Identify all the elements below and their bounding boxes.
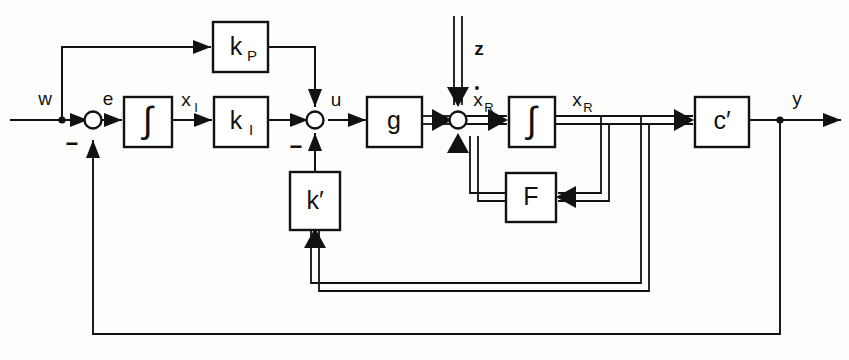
path-xR-tap-to-F xyxy=(556,116,609,208)
sum-junction-u xyxy=(307,112,324,129)
block-kprime-label: k′ xyxy=(306,186,324,214)
signal-label-xR-subscript: R xyxy=(583,100,592,115)
signal-label-xI: x I xyxy=(181,89,198,115)
signal-label-xR-base: x xyxy=(572,89,582,110)
path-xR-tap-to-kprime xyxy=(304,116,649,291)
signal-label-xRdot-base: x xyxy=(473,89,483,110)
signal-label-xRdot: x R xyxy=(473,86,493,115)
path-kprime-to-sum-u xyxy=(308,133,322,172)
path-F-to-sum-xrdot xyxy=(447,133,505,201)
path-xR-to-cprime xyxy=(555,109,694,131)
block-cprime[interactable]: c′ xyxy=(695,97,749,147)
sign-mark-u-negative: − xyxy=(290,134,303,159)
path-ki-to-sum-u xyxy=(268,113,308,127)
signal-label-xR: x R xyxy=(572,89,592,115)
signal-label-z: z xyxy=(474,38,484,59)
diagram-svg: k P ∫ k I k′ g ∫ F c′ w e x I u z x xyxy=(0,0,849,360)
block-ki[interactable]: k I xyxy=(214,97,268,147)
signal-label-u: u xyxy=(331,89,342,110)
signal-label-y: y xyxy=(792,88,802,109)
block-g-label: g xyxy=(387,106,401,134)
block-F-label: F xyxy=(523,182,538,210)
signal-label-e: e xyxy=(103,88,114,109)
signal-label-w: w xyxy=(37,88,52,109)
block-kprime[interactable]: k′ xyxy=(290,172,340,230)
path-w-input xyxy=(10,113,88,127)
signal-label-xI-base: x xyxy=(181,89,191,110)
sum-junction-e xyxy=(85,112,102,129)
block-kp-label: k xyxy=(230,32,243,60)
block-g[interactable]: g xyxy=(367,97,422,147)
block-ki-subscript: I xyxy=(249,121,253,138)
path-e-to-integrator xyxy=(101,113,122,127)
path-cprime-to-y xyxy=(749,113,841,127)
branch-dot-w xyxy=(58,116,65,123)
path-kp-to-sum-u xyxy=(268,47,322,107)
block-ki-label: k xyxy=(230,106,243,134)
block-diagram-canvas: k P ∫ k I k′ g ∫ F c′ w e x I u z x xyxy=(0,0,849,360)
block-kp-subscript: P xyxy=(247,47,257,64)
signal-label-xRdot-subscript: R xyxy=(484,100,493,115)
block-F[interactable]: F xyxy=(506,173,556,222)
sign-mark-e-negative: − xyxy=(66,131,79,156)
path-xI-to-ki xyxy=(172,113,212,127)
block-kp[interactable]: k P xyxy=(213,22,268,72)
signal-label-xI-subscript: I xyxy=(194,100,198,115)
path-u-to-g xyxy=(328,113,366,127)
block-integrator-plant[interactable]: ∫ xyxy=(509,97,555,147)
signal-label-xRdot-overdot xyxy=(475,86,479,90)
path-g-to-sum-xrdot xyxy=(422,109,452,131)
path-z-input xyxy=(447,16,469,107)
block-cprime-label: c′ xyxy=(713,106,731,134)
path-y-feedback-to-sum-e xyxy=(86,120,780,334)
sum-junction-xrdot xyxy=(450,112,467,129)
block-integrator-controller[interactable]: ∫ xyxy=(124,97,172,147)
